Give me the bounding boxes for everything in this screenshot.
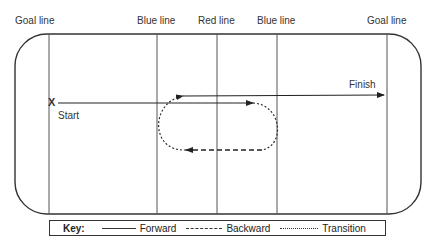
start-label: Start	[58, 110, 79, 121]
rink-boards	[15, 34, 421, 214]
finish-label: Finish	[349, 79, 376, 90]
rink-diagram	[0, 0, 436, 251]
legend-item-transition: Transition	[280, 223, 366, 234]
dotted-line-icon	[280, 228, 318, 229]
forward-path-finish	[183, 95, 384, 96]
legend-title: Key:	[63, 223, 85, 234]
legend: Key: Forward Backward Transition	[49, 220, 386, 236]
transition-path-left	[159, 96, 186, 150]
transition-path-right	[253, 103, 278, 150]
legend-item-forward: Forward	[102, 223, 177, 234]
dashed-line-icon	[186, 228, 222, 229]
legend-item-backward: Backward	[186, 223, 270, 234]
solid-line-icon	[102, 228, 136, 229]
start-marker: X	[48, 96, 55, 108]
